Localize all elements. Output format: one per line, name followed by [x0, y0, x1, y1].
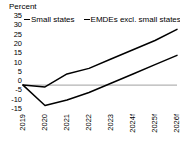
plot-area	[23, 20, 177, 113]
x-axis-tick-label: 2022	[85, 114, 93, 131]
y-axis-tick-labels: 35302520151050-5-10-15	[0, 16, 22, 116]
series-line-emdes-excl-small-states	[23, 29, 177, 87]
x-axis-tick-label: 2023	[107, 114, 115, 131]
series-line-small-states	[23, 55, 177, 105]
x-axis-tick-labels: 201920202021202220232024f2025f2026f	[23, 114, 177, 146]
y-axis-tick-label: 25	[0, 31, 22, 39]
x-axis-tick-label: 2019	[19, 114, 27, 131]
y-axis-tick-label: -5	[0, 86, 22, 94]
y-axis-tick-label: -10	[0, 96, 22, 104]
y-axis-tick-label: 30	[0, 21, 22, 29]
x-axis-tick-label: 2021	[63, 114, 71, 131]
y-axis-tick-label: 15	[0, 49, 22, 57]
x-axis-tick-label: 2026f	[173, 114, 180, 133]
y-axis-tick-label: 0	[0, 77, 22, 85]
y-axis-tick-label: 20	[0, 40, 22, 48]
x-axis-tick-label: 2024f	[129, 114, 137, 133]
x-axis-tick-label: 2020	[41, 114, 49, 131]
y-axis-tick-label: 5	[0, 68, 22, 76]
plot-svg	[23, 20, 177, 113]
y-axis-tick-label: 35	[0, 12, 22, 20]
chart-container: Percent Small states EMDEs excl. small s…	[0, 0, 180, 146]
y-axis-tick-label: 10	[0, 59, 22, 67]
x-axis-tick-label: 2025f	[151, 114, 159, 133]
y-axis-tick-label: -15	[0, 105, 22, 113]
